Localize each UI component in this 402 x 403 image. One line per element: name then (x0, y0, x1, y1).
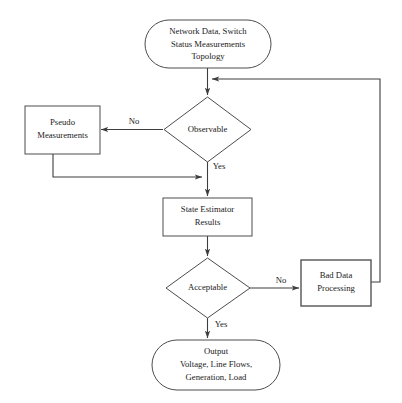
node-output-line3: Generation, Load (186, 372, 247, 382)
edge-label-observable-yes: Yes (213, 161, 226, 171)
flowchart-canvas: Network Data, Switch Status Measurements… (0, 0, 402, 403)
node-observable-label: Observable (188, 124, 228, 134)
edge-label-acceptable-yes: Yes (215, 319, 228, 329)
node-bad-data-line1: Bad Data (320, 270, 353, 280)
node-pseudo-line2: Measurements (37, 130, 88, 140)
node-output-line1: Output (204, 346, 229, 356)
node-output-line2: Voltage, Line Flows, (180, 359, 252, 369)
edge-label-observable-no: No (129, 116, 140, 126)
node-acceptable-label: Acceptable (188, 282, 227, 292)
edge-label-acceptable-no: No (276, 275, 287, 285)
node-input-line2: Status Measurements (171, 39, 246, 49)
node-state-estimator-line1: State Estimator (181, 204, 234, 214)
node-input-line1: Network Data, Switch (169, 26, 247, 36)
flowchart-svg: Network Data, Switch Status Measurements… (0, 0, 402, 403)
node-bad-data-line2: Processing (317, 283, 355, 293)
node-state-estimator-line2: Results (195, 217, 221, 227)
node-input-line3: Topology (191, 51, 225, 61)
edge-bad-data-feedback-to-trunk (212, 79, 380, 282)
node-pseudo-line1: Pseudo (50, 117, 76, 127)
edge-pseudo-feedback-to-trunk (53, 154, 202, 177)
